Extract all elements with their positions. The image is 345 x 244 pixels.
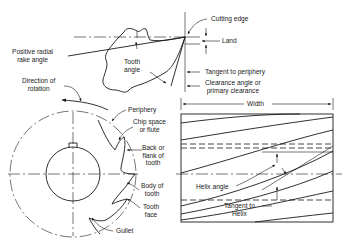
label-tooth-face: Tooth face: [143, 203, 159, 218]
label-gullet: Gullet: [116, 227, 133, 235]
label-chip-space-or-flute: Chip space or flute: [133, 118, 166, 133]
diagram-drawing: [0, 0, 345, 244]
label-clearance-angle: Clearance angle or primary clearance: [205, 79, 261, 94]
label-body-of-tooth: Body of tooth: [141, 182, 163, 197]
label-direction-of-rotation: Direction of rotation: [22, 77, 55, 92]
side-view: [176, 98, 342, 226]
label-helix-angle: Helix angle: [196, 183, 229, 191]
label-tangent-to-helix: Tangent to Helix: [224, 202, 255, 217]
label-land: Land: [222, 37, 237, 45]
tooth-detail: [68, 12, 220, 92]
label-width: Width: [247, 100, 264, 108]
label-tooth-angle: Tooth angle: [124, 58, 140, 73]
label-periphery: Periphery: [128, 106, 156, 114]
label-back-or-flank-of-tooth: Back or flank of tooth: [142, 144, 164, 167]
end-view: [8, 86, 142, 237]
milling-cutter-diagram: Cutting edge Land Positive radial rake a…: [0, 0, 345, 244]
label-cutting-edge: Cutting edge: [211, 15, 248, 23]
label-tangent-to-periphery: Tangent to periphery: [205, 68, 265, 76]
label-positive-radial-rake-angle: Positive radial rake angle: [12, 48, 53, 63]
